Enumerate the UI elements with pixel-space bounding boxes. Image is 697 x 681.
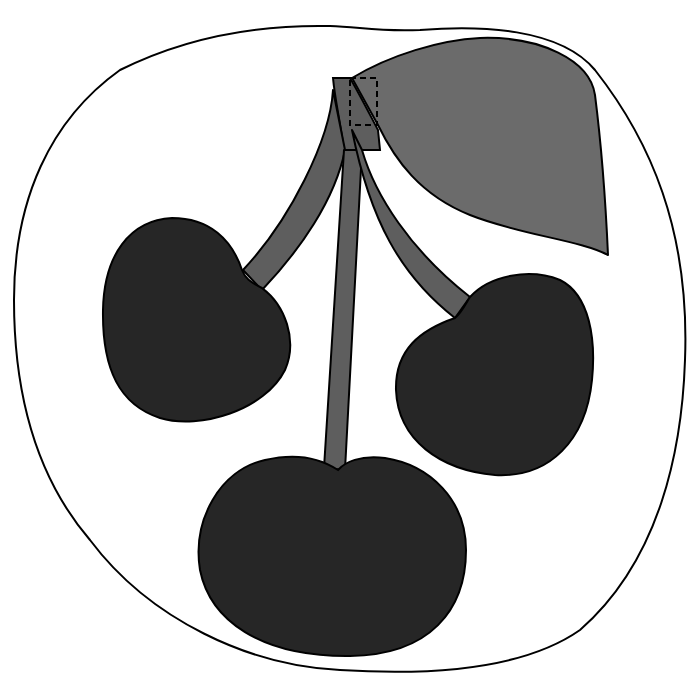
cherries-illustration <box>0 0 697 681</box>
cherry-bottom <box>199 457 466 656</box>
